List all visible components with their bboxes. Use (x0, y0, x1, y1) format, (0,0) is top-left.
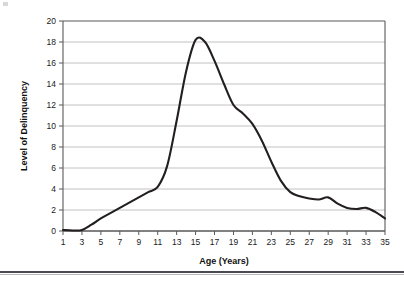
x-tick-label-1: 1 (61, 237, 66, 247)
y-tick-label-8: 8 (51, 142, 56, 152)
y-tick-label-14: 14 (47, 79, 57, 89)
x-axis-title: Age (Years) (199, 256, 249, 266)
y-tick-label-16: 16 (47, 58, 57, 68)
x-tick-label-33: 33 (361, 237, 371, 247)
x-tick-label-19: 19 (229, 237, 239, 247)
x-tick-label-17: 17 (210, 237, 220, 247)
y-tick-label-0: 0 (51, 226, 56, 236)
x-tick-label-15: 15 (191, 237, 201, 247)
y-tick-label-2: 2 (51, 205, 56, 215)
footer-rule (0, 271, 404, 273)
x-tick-label-31: 31 (342, 237, 352, 247)
x-tick-label-23: 23 (267, 237, 277, 247)
y-tick-label-6: 6 (51, 163, 56, 173)
y-tick-label-12: 12 (47, 100, 57, 110)
x-tick-label-35: 35 (380, 237, 390, 247)
x-tick-label-9: 9 (136, 237, 141, 247)
x-tick-label-27: 27 (305, 237, 315, 247)
x-axis-ticks (63, 231, 385, 235)
y-axis-tick-labels: 02468101214161820 (47, 16, 57, 236)
delinquency-line-chart: 02468101214161820 1357911131517192123252… (0, 0, 404, 283)
y-axis-title: Level of Delinquency (19, 81, 29, 171)
x-tick-label-3: 3 (80, 237, 85, 247)
x-tick-label-7: 7 (117, 237, 122, 247)
y-tick-label-10: 10 (47, 121, 57, 131)
x-tick-label-13: 13 (172, 237, 182, 247)
x-tick-label-29: 29 (323, 237, 333, 247)
x-tick-label-21: 21 (248, 237, 258, 247)
y-tick-label-20: 20 (47, 16, 57, 26)
y-axis-ticks (59, 21, 63, 231)
x-tick-label-11: 11 (153, 237, 162, 247)
chart-figure: 02468101214161820 1357911131517192123252… (0, 0, 404, 283)
x-axis-tick-labels: 1357911131517192123252729313335 (61, 237, 390, 247)
x-tick-label-5: 5 (99, 237, 104, 247)
x-tick-label-25: 25 (286, 237, 296, 247)
y-tick-label-4: 4 (51, 184, 56, 194)
y-tick-label-18: 18 (47, 37, 57, 47)
footer-rule-shadow (0, 274, 404, 275)
